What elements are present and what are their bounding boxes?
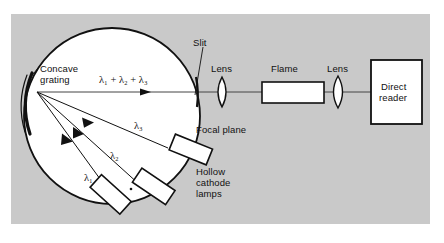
hollow-cathode-label-line1: Hollow bbox=[196, 166, 225, 177]
focal-plane-label: Focal plane bbox=[196, 124, 246, 135]
lens-2-label: Lens bbox=[327, 63, 348, 74]
lens-1-label: Lens bbox=[211, 63, 232, 74]
lambda-2-label: λ₂ bbox=[110, 150, 119, 162]
slit-label: Slit bbox=[193, 37, 207, 48]
slit-leader bbox=[195, 47, 203, 95]
optical-diagram bbox=[0, 0, 444, 243]
focal-point-dot bbox=[130, 188, 133, 191]
lens-1 bbox=[218, 77, 226, 107]
lambda-3-label: λ₃ bbox=[134, 120, 143, 132]
direct-reader-label-line2: reader bbox=[379, 92, 407, 103]
concave-grating-label-line2: grating bbox=[40, 74, 70, 85]
hollow-cathode-label-line3: lamps bbox=[196, 188, 222, 199]
concave-grating-label-line1: Concave bbox=[40, 63, 78, 74]
wavelength-sum-label: λ₁ + λ₂ + λ₃ bbox=[99, 74, 148, 86]
flame-cell bbox=[262, 82, 324, 103]
figure-page: Concave grating λ₁ + λ₂ + λ₃ Slit Lens F… bbox=[0, 0, 444, 243]
lambda-1-label: λ₁ bbox=[84, 172, 93, 184]
flame-label: Flame bbox=[271, 63, 298, 74]
hollow-cathode-label-line2: cathode bbox=[196, 177, 231, 188]
lens-2 bbox=[334, 76, 343, 108]
rowland-circle bbox=[24, 28, 200, 204]
direct-reader-label-line1: Direct bbox=[381, 81, 406, 92]
